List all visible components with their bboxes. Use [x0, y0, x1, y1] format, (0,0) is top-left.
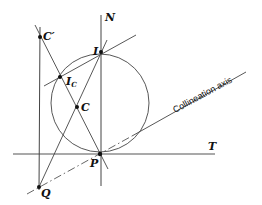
label-q: Q — [41, 187, 51, 200]
circle — [51, 54, 149, 152]
label-i-c: IC — [65, 75, 77, 89]
label-c-prime: C′ — [43, 30, 55, 43]
collineation-diagram: N T C′ I IC C P Q Collineation axis — [0, 0, 262, 205]
point-i — [99, 50, 103, 54]
point-c — [75, 105, 79, 109]
label-i: I — [92, 45, 99, 58]
point-c-prime — [38, 35, 42, 39]
label-p: P — [89, 157, 99, 170]
label-collineation-axis: Collineation axis — [171, 74, 234, 114]
label-t: T — [208, 140, 217, 153]
label-c: C — [81, 101, 90, 114]
point-p — [98, 152, 102, 156]
collineation-axis-dashed — [27, 136, 132, 194]
point-i-c — [58, 75, 62, 79]
line-i-ic — [44, 35, 136, 86]
label-i-c-sub: C — [71, 80, 77, 89]
label-n: N — [104, 11, 116, 24]
vertical-line-cprime-q — [39, 27, 40, 190]
